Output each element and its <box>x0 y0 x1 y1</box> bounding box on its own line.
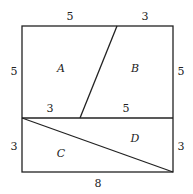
right-lower-length: 3 <box>178 140 185 153</box>
middle-right-length: 5 <box>123 102 130 115</box>
top-left-length: 5 <box>67 10 74 23</box>
slanted-cut-line <box>80 26 117 118</box>
right-upper-length: 5 <box>178 65 185 78</box>
left-upper-length: 5 <box>11 65 18 78</box>
top-right-length: 3 <box>142 10 149 23</box>
middle-left-length: 3 <box>47 102 54 115</box>
region-label-d: D <box>130 132 140 145</box>
region-label-a: A <box>56 62 65 75</box>
dissection-diagram: A B C D 5 3 5 5 3 5 3 3 8 <box>0 0 193 194</box>
outer-square <box>22 26 173 172</box>
bottom-length: 8 <box>95 177 102 190</box>
left-lower-length: 3 <box>11 140 18 153</box>
region-label-b: B <box>130 62 139 75</box>
diagonal-cut-line <box>22 118 173 172</box>
region-label-c: C <box>57 147 66 160</box>
